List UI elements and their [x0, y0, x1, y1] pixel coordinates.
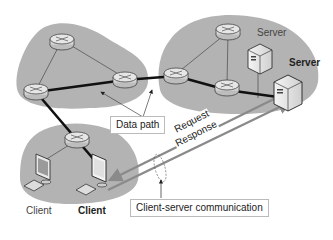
data-path-label: Data path [110, 116, 165, 134]
server-label: Server [257, 28, 286, 38]
server-label-main: Server [289, 58, 320, 68]
server-icon-top [248, 44, 272, 74]
client-server-communication-label: Client-server communication [130, 199, 269, 217]
client-label-main: Client [78, 206, 106, 216]
server-icon-main [274, 75, 302, 111]
client-label: Client [26, 206, 52, 216]
